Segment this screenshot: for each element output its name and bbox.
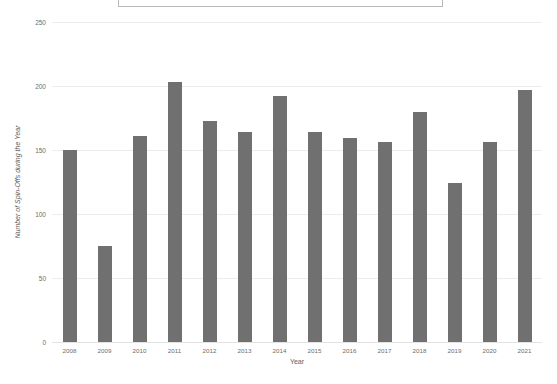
y-tick-label: 250 [35, 19, 46, 26]
bar-group[interactable]: 2017 [367, 22, 402, 342]
bar-group[interactable]: 2012 [192, 22, 227, 342]
bar[interactable] [168, 82, 182, 342]
bar[interactable] [378, 142, 392, 342]
x-tick-label: 2009 [98, 347, 112, 354]
bar-group[interactable]: 2011 [157, 22, 192, 342]
bar-chart: Number of Spin-Offs per Year 05010015020… [0, 0, 557, 384]
bar[interactable] [413, 112, 427, 342]
bar-group[interactable]: 2010 [122, 22, 157, 342]
y-tick-label: 0 [42, 339, 46, 346]
bar-group[interactable]: 2020 [472, 22, 507, 342]
bar-group[interactable]: 2021 [507, 22, 542, 342]
bar[interactable] [518, 90, 532, 342]
bar-group[interactable]: 2009 [87, 22, 122, 342]
bar[interactable] [133, 136, 147, 342]
bar-group[interactable]: 2008 [52, 22, 87, 342]
bar[interactable] [448, 183, 462, 342]
bar-group[interactable]: 2016 [332, 22, 367, 342]
bar[interactable] [273, 96, 287, 342]
bar[interactable] [98, 246, 112, 342]
x-axis-title: Year [52, 358, 542, 365]
bar-group[interactable]: 2019 [437, 22, 472, 342]
x-tick-label: 2019 [448, 347, 462, 354]
bar[interactable] [63, 150, 77, 342]
y-tick-label: 200 [35, 83, 46, 90]
x-tick-label: 2018 [413, 347, 427, 354]
bar-series: 2008200920102011201220132014201520162017… [52, 22, 542, 342]
x-tick-label: 2015 [308, 347, 322, 354]
x-tick-label: 2017 [378, 347, 392, 354]
x-tick-label: 2011 [168, 347, 181, 354]
bar-group[interactable]: 2015 [297, 22, 332, 342]
x-tick-label: 2013 [238, 347, 252, 354]
bar-group[interactable]: 2018 [402, 22, 437, 342]
y-axis-title: Number of Spin-Offs during the Year [14, 125, 21, 238]
y-tick-label: 150 [35, 147, 46, 154]
gridline: 0 [52, 342, 542, 343]
x-tick-label: 2020 [483, 347, 497, 354]
bar[interactable] [483, 142, 497, 342]
plot-area: 050100150200250 200820092010201120122013… [52, 22, 542, 342]
y-tick-label: 50 [39, 275, 46, 282]
bar[interactable] [308, 132, 322, 342]
bar[interactable] [203, 121, 217, 342]
y-tick-label: 100 [35, 211, 46, 218]
bar[interactable] [343, 138, 357, 342]
x-tick-label: 2014 [273, 347, 287, 354]
bar-group[interactable]: 2013 [227, 22, 262, 342]
x-tick-label: 2008 [63, 347, 77, 354]
x-tick-label: 2021 [518, 347, 532, 354]
chart-title-box: Number of Spin-Offs per Year [118, 0, 443, 7]
x-tick-label: 2016 [343, 347, 357, 354]
x-tick-label: 2010 [133, 347, 147, 354]
x-tick-label: 2012 [203, 347, 217, 354]
bar-group[interactable]: 2014 [262, 22, 297, 342]
bar[interactable] [238, 132, 252, 342]
